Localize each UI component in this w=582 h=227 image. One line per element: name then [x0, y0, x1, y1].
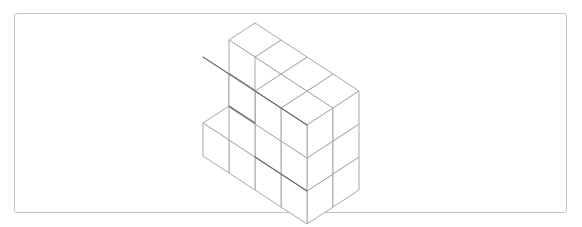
- cube-stack-svg: [0, 0, 582, 227]
- cube-cells: [203, 23, 359, 224]
- isometric-cube-figure: [0, 0, 582, 227]
- screenshot-root: [0, 0, 582, 227]
